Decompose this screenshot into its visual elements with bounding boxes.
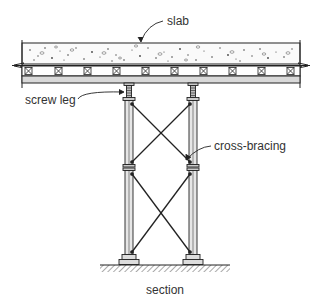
diagram-caption: section xyxy=(146,283,184,297)
shore-leg-right xyxy=(183,83,203,265)
cross-bracing xyxy=(131,103,191,253)
slab-leader xyxy=(141,21,163,41)
screw-leg-label: screw leg xyxy=(25,93,76,107)
screw-leg-leader xyxy=(78,92,123,99)
shore-leg-left xyxy=(119,83,139,265)
ground xyxy=(100,265,230,272)
cross-bracing-label: cross-bracing xyxy=(214,139,286,153)
beam xyxy=(22,76,300,83)
joists xyxy=(22,66,300,76)
shoring-section-diagram: slab screw leg cross-bracing section xyxy=(0,0,312,306)
slab-label: slab xyxy=(167,14,189,28)
